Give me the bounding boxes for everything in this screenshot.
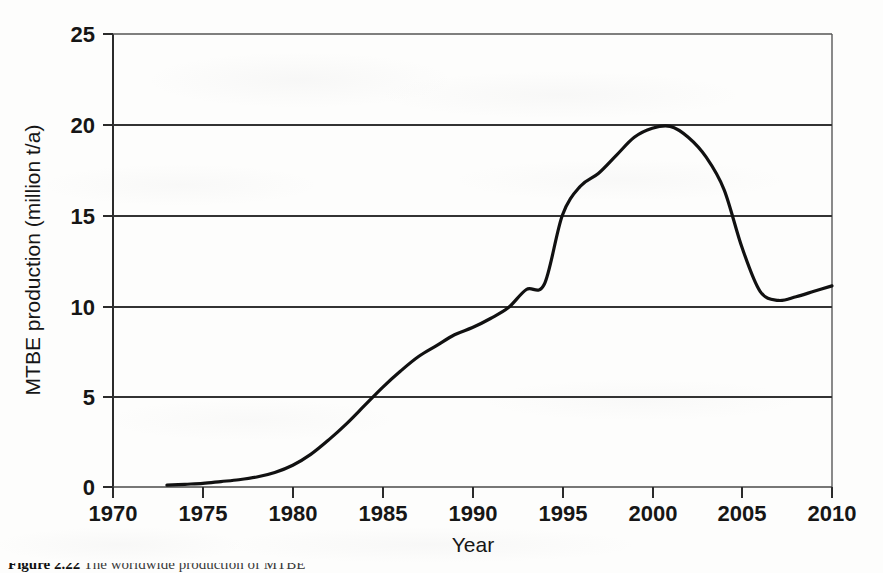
xtick-label-1970: 1970	[89, 501, 138, 526]
xtick-label-2000: 2000	[629, 501, 678, 526]
xtick-label-2010: 2010	[808, 501, 857, 526]
xtick-label-1975: 1975	[179, 501, 228, 526]
xtick-label-1995: 1995	[539, 501, 588, 526]
figure-caption-strip: Figure 2.22 The worldwide production of …	[0, 563, 883, 573]
y-axis-title: MTBE production (million t/a)	[21, 125, 44, 396]
gridlines-horizontal	[113, 125, 832, 397]
figure-caption-text: The worldwide production of MTBE	[84, 563, 306, 572]
ytick-label-25: 25	[71, 22, 95, 47]
plot-frame	[113, 34, 832, 487]
ytick-label-10: 10	[71, 295, 95, 320]
mtbe-production-line-chart: 0 5 10 15 20 25 1970 1975 1980 1985 1990…	[0, 0, 883, 573]
ytick-label-5: 5	[83, 385, 95, 410]
y-axis-ticks	[103, 34, 113, 487]
ytick-label-15: 15	[71, 204, 95, 229]
x-axis-title: Year	[452, 533, 494, 556]
ytick-label-0: 0	[83, 475, 95, 500]
figure-caption-label: Figure 2.22	[8, 563, 80, 572]
xtick-label-1990: 1990	[449, 501, 498, 526]
x-axis-ticks	[113, 487, 832, 498]
data-series-line	[167, 126, 832, 485]
y-axis-tick-labels: 0 5 10 15 20 25	[71, 22, 95, 500]
xtick-label-2005: 2005	[718, 501, 767, 526]
x-axis-tick-labels: 1970 1975 1980 1985 1990 1995 2000 2005 …	[89, 501, 857, 526]
ytick-label-20: 20	[71, 113, 95, 138]
xtick-label-1980: 1980	[269, 501, 318, 526]
figure-container: 0 5 10 15 20 25 1970 1975 1980 1985 1990…	[0, 0, 883, 573]
xtick-label-1985: 1985	[359, 501, 408, 526]
